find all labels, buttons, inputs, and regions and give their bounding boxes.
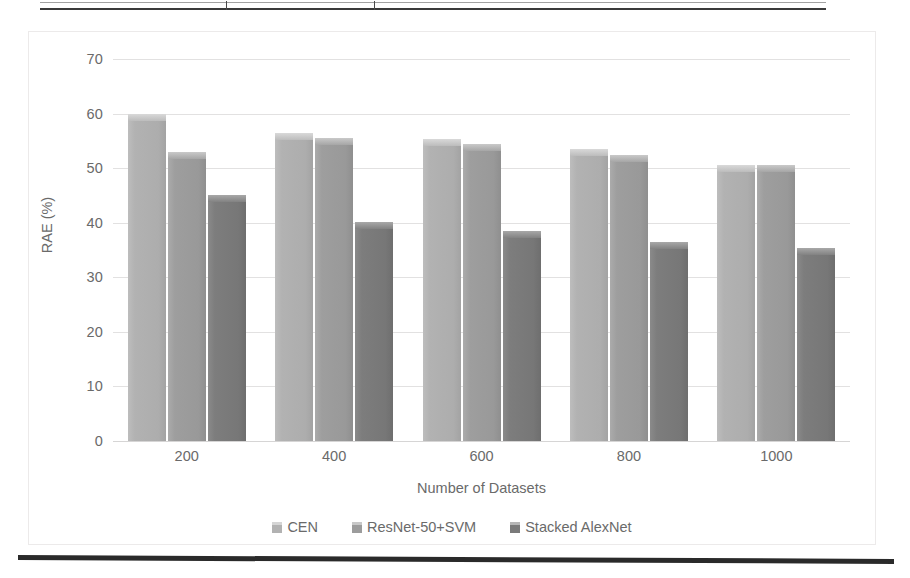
bar-highlight xyxy=(610,155,648,162)
bar-highlight xyxy=(275,133,313,140)
x-axis-title: Number of Datasets xyxy=(113,480,850,496)
bar-200-resnet-50-svm[interactable] xyxy=(168,152,206,441)
table-column-divider xyxy=(374,1,375,10)
x-axis-tick-label: 600 xyxy=(408,448,555,464)
y-axis-tick-labels: 010203040506070 xyxy=(29,59,103,441)
x-axis-tick-label: 800 xyxy=(555,448,702,464)
bar-highlight xyxy=(717,165,755,172)
bar-1000-stacked-alexnet[interactable] xyxy=(797,248,835,441)
bar-highlight xyxy=(570,149,608,156)
y-axis-tick-label: 50 xyxy=(57,160,103,176)
bar-group-200 xyxy=(113,59,260,441)
chart-container: RAE (%) 010203040506070 2004006008001000… xyxy=(28,31,876,545)
bar-highlight xyxy=(423,139,461,146)
y-axis-tick-label: 70 xyxy=(57,51,103,67)
legend-label: Stacked AlexNet xyxy=(525,519,631,535)
bar-400-resnet-50-svm[interactable] xyxy=(315,138,353,441)
bar-highlight xyxy=(128,114,166,121)
legend-swatch-icon xyxy=(272,522,282,533)
table-column-divider xyxy=(226,1,227,10)
table-border-lower-line xyxy=(40,8,826,10)
bar-highlight xyxy=(650,242,688,249)
legend-item-resnet-50-svm[interactable]: ResNet-50+SVM xyxy=(352,519,476,535)
y-axis-tick-label: 30 xyxy=(57,269,103,285)
bar-600-cen[interactable] xyxy=(423,139,461,441)
plot-area xyxy=(113,59,850,441)
bar-group-600 xyxy=(408,59,555,441)
x-axis-tick-label: 400 xyxy=(260,448,407,464)
legend-label: CEN xyxy=(287,519,318,535)
bar-1000-resnet-50-svm[interactable] xyxy=(757,165,795,441)
y-axis-tick-label: 10 xyxy=(57,378,103,394)
bar-400-stacked-alexnet[interactable] xyxy=(355,222,393,441)
bar-600-stacked-alexnet[interactable] xyxy=(503,231,541,441)
bar-group-800 xyxy=(555,59,702,441)
bars-layer xyxy=(113,59,850,441)
bar-200-cen[interactable] xyxy=(128,114,166,441)
legend-swatch-icon xyxy=(352,522,362,533)
bar-highlight xyxy=(168,152,206,159)
bar-group-400 xyxy=(260,59,407,441)
y-axis-tick-label: 20 xyxy=(57,324,103,340)
table-border-upper-line xyxy=(40,2,826,3)
legend-label: ResNet-50+SVM xyxy=(367,519,476,535)
bar-group-1000 xyxy=(703,59,850,441)
chart-legend: CENResNet-50+SVMStacked AlexNet xyxy=(29,519,875,535)
bar-highlight xyxy=(797,248,835,255)
horizontal-rule xyxy=(18,555,894,564)
bar-600-resnet-50-svm[interactable] xyxy=(463,144,501,441)
y-axis-tick-label: 0 xyxy=(57,433,103,449)
bar-1000-cen[interactable] xyxy=(717,165,755,441)
legend-item-cen[interactable]: CEN xyxy=(272,519,318,535)
bar-400-cen[interactable] xyxy=(275,133,313,441)
bar-800-resnet-50-svm[interactable] xyxy=(610,155,648,442)
bar-highlight xyxy=(208,195,246,202)
bar-800-cen[interactable] xyxy=(570,149,608,441)
legend-swatch-icon xyxy=(510,522,520,533)
bar-highlight xyxy=(503,231,541,238)
gridline xyxy=(113,441,850,442)
bar-200-stacked-alexnet[interactable] xyxy=(208,195,246,441)
y-axis-tick-label: 40 xyxy=(57,215,103,231)
bar-highlight xyxy=(463,144,501,151)
x-axis-tick-labels: 2004006008001000 xyxy=(113,448,850,464)
x-axis-tick-label: 200 xyxy=(113,448,260,464)
table-bottom-border xyxy=(40,1,826,10)
x-axis-tick-label: 1000 xyxy=(703,448,850,464)
bar-highlight xyxy=(315,138,353,145)
bar-800-stacked-alexnet[interactable] xyxy=(650,242,688,441)
legend-item-stacked-alexnet[interactable]: Stacked AlexNet xyxy=(510,519,631,535)
y-axis-tick-label: 60 xyxy=(57,106,103,122)
bar-highlight xyxy=(355,222,393,229)
bar-highlight xyxy=(757,165,795,172)
